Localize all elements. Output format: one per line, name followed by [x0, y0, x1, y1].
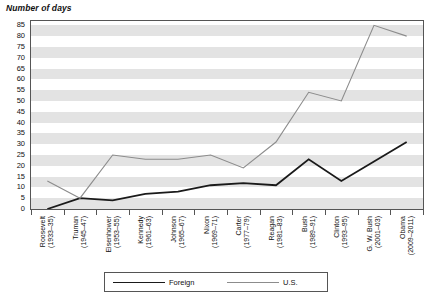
y-axis-tick-label: 60	[17, 76, 25, 84]
legend-swatch-foreign-icon	[113, 282, 165, 283]
legend-item-us: U.S.	[227, 273, 298, 291]
x-label-years: (2001–03)	[374, 216, 382, 272]
y-axis-tick-label: 75	[17, 43, 25, 51]
x-label-years: (1933–35)	[47, 216, 55, 272]
chart-root: Number of days 0510152025303540455055606…	[0, 0, 432, 299]
x-axis-tick-label: Clinton(1993–95)	[333, 216, 349, 272]
y-axis-tick-label: 85	[17, 22, 25, 30]
series-lines	[31, 21, 423, 209]
x-label-name: Eisenhower	[105, 216, 113, 272]
x-label-years: (2009–2011)	[407, 216, 415, 272]
y-axis-tick-label: 70	[17, 54, 25, 62]
x-axis-tick-labels: Roosevelt(1933–35)Truman(1945–47)Eisenho…	[30, 216, 424, 272]
plot-area	[30, 20, 424, 210]
x-label-years: (1981–83)	[276, 216, 284, 272]
x-label-name: Nixon	[203, 216, 211, 272]
x-axis-tick	[129, 210, 130, 215]
x-axis-tick	[227, 210, 228, 215]
legend-swatch-us-icon	[227, 282, 279, 283]
y-axis-tick-label: 20	[17, 162, 25, 170]
x-axis-tick	[96, 210, 97, 215]
y-axis-tick-label: 0	[21, 205, 25, 213]
legend-label-foreign: Foreign	[169, 278, 194, 287]
legend: Foreign U.S.	[104, 272, 328, 292]
x-label-name: Reagan	[268, 216, 276, 272]
x-label-years: (1965–67)	[178, 216, 186, 272]
y-axis-tick-label: 65	[17, 65, 25, 73]
x-axis-tick-label: Nixon(1969–71)	[203, 216, 219, 272]
series-line-us	[47, 25, 406, 198]
y-axis-tick-label: 30	[17, 140, 25, 148]
x-axis-tick	[325, 210, 326, 215]
y-axis-tick-label: 5	[21, 194, 25, 202]
x-axis-tick	[390, 210, 391, 215]
x-label-years: (1961–63)	[145, 216, 153, 272]
y-axis-title: Number of days	[6, 3, 72, 13]
x-axis-tick	[423, 210, 424, 215]
x-axis-tick-label: Kennedy(1961–63)	[137, 216, 153, 272]
y-axis-tick-label: 10	[17, 184, 25, 192]
x-axis-tick	[292, 210, 293, 215]
x-label-name: Truman	[72, 216, 80, 272]
x-label-name: G. W. Bush	[366, 216, 374, 272]
y-axis-tick-label: 40	[17, 119, 25, 127]
x-axis-tick-label: Carter(1977–79)	[235, 216, 251, 272]
x-axis-tick-label: Eisenhower(1953–55)	[105, 216, 121, 272]
x-label-name: Bush	[301, 216, 309, 272]
x-axis-tick	[162, 210, 163, 215]
y-axis-tick-label: 55	[17, 86, 25, 94]
x-axis-tick-label: Roosevelt(1933–35)	[39, 216, 55, 272]
x-label-name: Obama	[399, 216, 407, 272]
x-axis-tick-label: Johnson(1965–67)	[170, 216, 186, 272]
x-label-years: (1993–95)	[341, 216, 349, 272]
series-line-foreign	[47, 142, 406, 209]
legend-item-foreign: Foreign	[113, 273, 194, 291]
x-axis-tick	[260, 210, 261, 215]
x-axis-tick-label: G. W. Bush(2001–03)	[366, 216, 382, 272]
y-axis-tick-label: 35	[17, 130, 25, 138]
x-axis-tick-label: Obama(2009–2011)	[399, 216, 415, 272]
y-axis-tick-label: 25	[17, 151, 25, 159]
x-label-years: (1953–55)	[113, 216, 121, 272]
x-label-years: (1977–79)	[243, 216, 251, 272]
x-axis-tick-label: Reagan(1981–83)	[268, 216, 284, 272]
x-label-years: (1989–91)	[309, 216, 317, 272]
x-label-name: Johnson	[170, 216, 178, 272]
legend-label-us: U.S.	[283, 278, 298, 287]
x-axis-tick-label: Bush(1989–91)	[301, 216, 317, 272]
x-axis-tick-label: Truman(1945–47)	[72, 216, 88, 272]
x-axis-tick	[31, 210, 32, 215]
x-axis-tick	[64, 210, 65, 215]
x-label-years: (1945–47)	[80, 216, 88, 272]
y-axis-tick-label: 80	[17, 32, 25, 40]
y-axis-tick-labels: 0510152025303540455055606570758085	[0, 20, 28, 210]
x-axis-tick	[194, 210, 195, 215]
x-axis-tick	[358, 210, 359, 215]
x-label-years: (1969–71)	[211, 216, 219, 272]
y-axis-tick-label: 45	[17, 108, 25, 116]
y-axis-tick-label: 15	[17, 173, 25, 181]
y-axis-tick-label: 50	[17, 97, 25, 105]
